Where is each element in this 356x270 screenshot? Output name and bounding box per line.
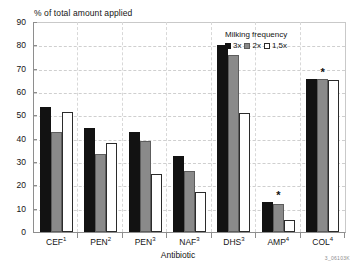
bar bbox=[273, 204, 284, 232]
y-axis-tick-label: 50 bbox=[0, 110, 26, 120]
x-axis-tick-labels: CEF1PEN2PEN3NAF3DHS3AMP4COL4 bbox=[34, 237, 345, 247]
x-axis-title: Antibiotic bbox=[0, 250, 356, 260]
figure-code: 3_06103K bbox=[325, 255, 350, 261]
bar bbox=[62, 112, 73, 232]
legend-item: 1,5x bbox=[264, 41, 287, 50]
x-axis-tick-label: NAF3 bbox=[167, 237, 211, 247]
chart-figure: % of total amount applied 01020304050607… bbox=[0, 0, 356, 270]
x-axis-tick-label: COL4 bbox=[301, 237, 345, 247]
bar bbox=[95, 154, 106, 232]
bar-group: * bbox=[301, 22, 345, 232]
bar-group bbox=[78, 22, 122, 232]
y-axis-tick-label: 20 bbox=[0, 180, 26, 190]
bar bbox=[140, 141, 151, 232]
bar bbox=[317, 79, 328, 232]
bar bbox=[84, 128, 95, 232]
x-axis-tick-label: PEN2 bbox=[78, 237, 122, 247]
bar bbox=[51, 132, 62, 232]
significance-marker: * bbox=[321, 69, 325, 75]
bar-group-bars bbox=[34, 22, 78, 232]
bar-group-bars bbox=[301, 22, 345, 232]
x-axis-tick-label: CEF1 bbox=[34, 237, 78, 247]
legend-label: 1,5x bbox=[272, 41, 287, 50]
legend-title: Milking frequency bbox=[225, 30, 337, 39]
bar bbox=[184, 171, 195, 232]
bar-group: * bbox=[256, 22, 300, 232]
legend: Milking frequency 3x2x1,5x bbox=[225, 30, 337, 50]
bar bbox=[239, 113, 250, 232]
bar bbox=[262, 202, 273, 232]
y-axis-tick-label: 90 bbox=[0, 17, 26, 27]
legend-entries: 3x2x1,5x bbox=[225, 41, 337, 50]
legend-swatch bbox=[264, 43, 270, 49]
y-axis-tick-label: 40 bbox=[0, 134, 26, 144]
bar bbox=[151, 174, 162, 232]
bar-group-bars bbox=[167, 22, 211, 232]
bar-group-bars bbox=[123, 22, 167, 232]
bar-group bbox=[123, 22, 167, 232]
bar bbox=[328, 80, 339, 232]
bar bbox=[129, 132, 140, 232]
y-axis-tick-label: 60 bbox=[0, 87, 26, 97]
bar-group-bars bbox=[212, 22, 256, 232]
y-axis-tick-label: 10 bbox=[0, 204, 26, 214]
legend-item: 2x bbox=[244, 41, 260, 50]
y-axis-tick-label: 80 bbox=[0, 40, 26, 50]
bar-group bbox=[167, 22, 211, 232]
y-axis-title: % of total amount applied bbox=[34, 8, 132, 18]
y-axis-tick-label: 70 bbox=[0, 64, 26, 74]
bar bbox=[228, 55, 239, 232]
x-axis-tick-label: AMP4 bbox=[256, 237, 300, 247]
bar-group bbox=[34, 22, 78, 232]
y-axis-tick-label: 30 bbox=[0, 157, 26, 167]
bar bbox=[173, 156, 184, 232]
bar-groups: ** bbox=[34, 22, 345, 232]
y-axis-tick-label: 0 bbox=[0, 227, 26, 237]
legend-swatch bbox=[225, 43, 231, 49]
bar-group-bars bbox=[78, 22, 122, 232]
legend-label: 3x bbox=[233, 41, 241, 50]
legend-label: 2x bbox=[252, 41, 260, 50]
x-axis-tick-label: PEN3 bbox=[123, 237, 167, 247]
bar bbox=[40, 107, 51, 232]
legend-swatch bbox=[244, 43, 250, 49]
bar bbox=[106, 143, 117, 232]
bar bbox=[195, 192, 206, 232]
bar bbox=[217, 45, 228, 232]
significance-marker: * bbox=[276, 192, 280, 198]
bar bbox=[284, 220, 295, 232]
x-axis-tick-label: DHS3 bbox=[212, 237, 256, 247]
legend-item: 3x bbox=[225, 41, 241, 50]
bar-group bbox=[212, 22, 256, 232]
bar bbox=[306, 79, 317, 232]
